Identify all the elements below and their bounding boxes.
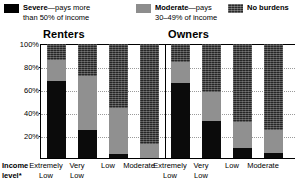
bar-segment-moderate (47, 60, 66, 81)
y-tick-label-20: 20% (3, 132, 39, 141)
chart-legend: Severe—pays more than 50% of income Mode… (0, 2, 299, 26)
x-axis-labels: Extremely Low Very Low Low Moderate Extr… (40, 161, 295, 187)
bar-segment-no-burdens (140, 44, 159, 144)
legend-label-severe: Severe—pays more than 50% of income (23, 3, 90, 22)
bar-segment-no-burdens (47, 44, 66, 60)
no-burdens-swatch-icon (228, 4, 243, 13)
x-label-line2: Low (39, 171, 53, 180)
bar-segment-severe (78, 130, 97, 159)
x-label-owners-moderate: Moderate (240, 161, 286, 171)
bar-segment-severe (47, 81, 66, 159)
bar-owners-moderate[interactable] (264, 44, 283, 159)
legend-item-no-burdens: No burdens (228, 3, 289, 13)
bar-segment-moderate (140, 144, 159, 158)
bar-segment-moderate (202, 92, 221, 121)
group-title-renters: Renters (43, 28, 85, 40)
bar-segment-severe (202, 121, 221, 159)
bar-segment-moderate (233, 122, 252, 147)
legend-label-severe-line2: than 50% of income (23, 13, 89, 22)
legend-label-moderate: Moderate—pays 30–49% of income (155, 3, 217, 22)
bar-renters-moderate[interactable] (140, 44, 159, 159)
legend-item-moderate: Moderate—pays 30–49% of income (136, 3, 217, 22)
bar-owners-extremely-low[interactable] (171, 44, 190, 159)
bar-owners-low[interactable] (233, 44, 252, 159)
bar-segment-no-burdens (109, 44, 128, 108)
housing-burden-chart: Severe—pays more than 50% of income Mode… (0, 0, 299, 189)
bar-segment-moderate (78, 76, 97, 130)
plot-area (40, 44, 295, 159)
x-label-line2: Low (194, 171, 208, 180)
axis-title-line2: level* (2, 171, 22, 180)
y-tick-label-40: 40% (3, 109, 39, 118)
bar-segment-no-burdens (202, 44, 221, 92)
bar-renters-extremely-low[interactable] (47, 44, 66, 159)
bar-owners-very-low[interactable] (202, 44, 221, 159)
x-label-line1: Very (193, 161, 208, 170)
bar-segment-no-burdens (78, 44, 97, 76)
x-label-line2: Low (163, 171, 177, 180)
bar-segment-moderate (264, 130, 283, 153)
severe-swatch-icon (4, 4, 19, 13)
legend-label-moderate-bold: Moderate (155, 3, 188, 12)
y-tick-label-60: 60% (3, 86, 39, 95)
bar-segment-no-burdens (233, 44, 252, 122)
legend-label-severe-bold: Severe (23, 3, 48, 12)
y-tick-label-80: 80% (3, 63, 39, 72)
group-divider (165, 45, 166, 159)
bar-segment-moderate (171, 62, 190, 83)
bar-segment-moderate (109, 108, 128, 154)
x-label-line1: Low (225, 161, 239, 170)
group-title-owners: Owners (168, 28, 209, 40)
bar-renters-low[interactable] (109, 44, 128, 159)
y-axis: 100% 80% 60% 40% 20% (0, 44, 39, 159)
x-label-line1: Low (101, 161, 115, 170)
legend-label-moderate-rest: —pays (188, 3, 211, 12)
x-label-line1: Very (69, 161, 84, 170)
legend-label-moderate-line2: 30–49% of income (155, 13, 217, 22)
y-tick-label-100: 100% (3, 40, 39, 49)
x-label-line2: Low (70, 171, 84, 180)
legend-label-severe-rest: —pays more (48, 3, 91, 12)
x-axis-baseline (41, 158, 295, 159)
legend-label-no-burdens: No burdens (247, 3, 289, 13)
bar-segment-severe (171, 83, 190, 159)
bar-segment-no-burdens (171, 44, 190, 62)
bar-segment-no-burdens (264, 44, 283, 130)
plot-inner (41, 45, 295, 159)
moderate-swatch-icon (136, 4, 151, 13)
bar-renters-very-low[interactable] (78, 44, 97, 159)
legend-item-severe: Severe—pays more than 50% of income (4, 3, 90, 22)
x-label-line1: Moderate (247, 161, 279, 170)
legend-label-no-burdens-bold: No burdens (247, 3, 289, 12)
